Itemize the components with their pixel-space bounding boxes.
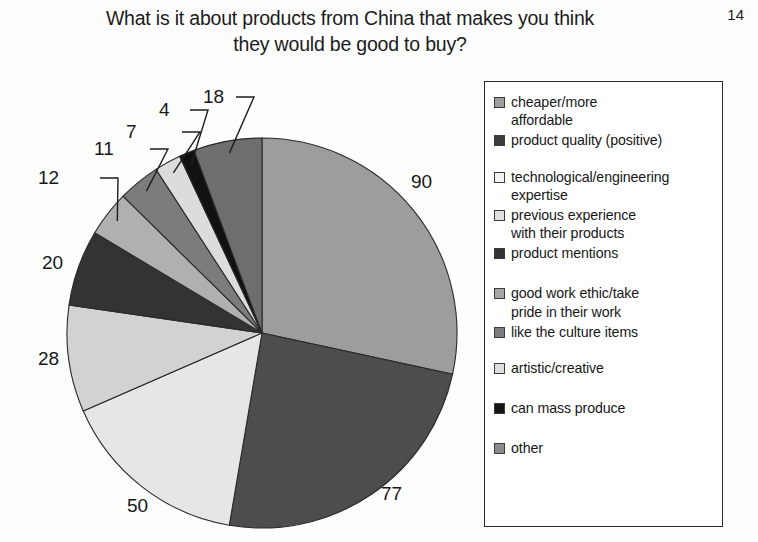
legend-swatch-icon xyxy=(494,327,505,338)
page-title-line-2: they would be good to buy? xyxy=(40,32,660,58)
legend-swatch-icon xyxy=(494,135,505,146)
legend-item[interactable]: technological/engineeringexpertise xyxy=(494,168,714,204)
legend-item[interactable]: good work ethic/takepride in their work xyxy=(494,284,714,320)
pie-chart: 907750282012117418 xyxy=(0,60,480,542)
legend-spacer xyxy=(494,343,714,359)
pie-value-label: 7 xyxy=(126,121,137,142)
legend-spacer xyxy=(494,379,714,399)
page-number: 14 xyxy=(727,6,744,23)
legend-item[interactable]: other xyxy=(494,439,714,457)
legend-swatch-icon xyxy=(494,172,505,183)
legend-spacer xyxy=(494,264,714,284)
legend-swatch-icon xyxy=(494,443,505,454)
legend-swatch-icon xyxy=(494,97,505,108)
legend-swatch-icon xyxy=(494,210,505,221)
pie-value-label: 18 xyxy=(203,86,224,107)
legend-item[interactable]: previous experiencewith their products xyxy=(494,206,714,242)
legend-item-label: product mentions xyxy=(511,244,618,262)
legend-item[interactable]: product mentions xyxy=(494,244,714,262)
page-title: What is it about products from China tha… xyxy=(40,6,660,58)
legend-item[interactable]: product quality (positive) xyxy=(494,131,714,149)
chart-legend: cheaper/moreaffordableproduct quality (p… xyxy=(484,81,723,527)
legend-swatch-icon xyxy=(494,248,505,259)
legend-item-label: cheaper/moreaffordable xyxy=(511,93,597,129)
pie-value-label: 90 xyxy=(411,171,432,192)
legend-item[interactable]: can mass produce xyxy=(494,399,714,417)
legend-item-label: artistic/creative xyxy=(511,359,604,377)
legend-item-label: technological/engineeringexpertise xyxy=(511,168,669,204)
legend-spacer xyxy=(494,152,714,168)
pie-value-label: 12 xyxy=(38,167,59,188)
legend-swatch-icon xyxy=(494,403,505,414)
pie-value-label: 20 xyxy=(42,252,63,273)
pie-value-label: 28 xyxy=(38,348,59,369)
legend-swatch-icon xyxy=(494,363,505,374)
legend-item-label: product quality (positive) xyxy=(511,131,662,149)
slide-canvas: What is it about products from China tha… xyxy=(0,0,758,542)
legend-spacer xyxy=(494,419,714,439)
legend-item[interactable]: artistic/creative xyxy=(494,359,714,377)
pie-slices-group xyxy=(67,138,457,528)
legend-item-label: good work ethic/takepride in their work xyxy=(511,284,639,320)
legend-item-label: can mass produce xyxy=(511,399,625,417)
legend-swatch-icon xyxy=(494,288,505,299)
legend-item-label: other xyxy=(511,439,543,457)
legend-item[interactable]: cheaper/moreaffordable xyxy=(494,93,714,129)
legend-item-label: like the culture items xyxy=(511,323,638,341)
pie-chart-svg: 907750282012117418 xyxy=(0,60,480,542)
pie-value-label: 11 xyxy=(94,138,114,159)
legend-item-label: previous experiencewith their products xyxy=(511,206,636,242)
page-title-line-1: What is it about products from China tha… xyxy=(40,6,660,32)
pie-value-label: 77 xyxy=(381,483,402,504)
pie-value-label: 50 xyxy=(127,495,148,516)
legend-item[interactable]: like the culture items xyxy=(494,323,714,341)
pie-value-label: 4 xyxy=(159,99,170,120)
